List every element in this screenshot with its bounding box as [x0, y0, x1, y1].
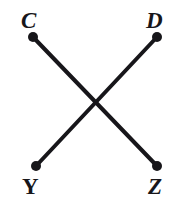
vertex-dot-c: [28, 32, 38, 42]
vertex-label-c: C: [21, 9, 36, 32]
vertex-label-d: D: [146, 9, 163, 32]
geometry-figure: C D Y Z: [0, 0, 175, 201]
vertex-label-z: Z: [148, 175, 162, 198]
vertex-dot-d: [152, 32, 162, 42]
vertex-dot-y: [31, 161, 41, 171]
vertex-dot-z: [152, 161, 162, 171]
vertex-label-y: Y: [22, 175, 39, 198]
